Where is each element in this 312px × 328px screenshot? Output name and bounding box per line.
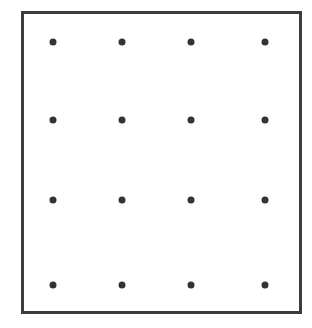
grid-dot-r3-c2 (119, 197, 126, 204)
grid-frame (21, 11, 302, 314)
grid-dot-r1-c3 (188, 39, 195, 46)
grid-dot-r4-c2 (119, 282, 126, 289)
grid-dot-r3-c1 (50, 197, 57, 204)
grid-dot-r2-c1 (50, 117, 57, 124)
grid-dot-r1-c2 (119, 39, 126, 46)
grid-dot-r3-c3 (188, 197, 195, 204)
grid-dot-r2-c4 (262, 117, 269, 124)
grid-dot-r4-c4 (262, 282, 269, 289)
grid-dot-r1-c1 (50, 39, 57, 46)
grid-dot-r4-c1 (50, 282, 57, 289)
grid-dot-r1-c4 (262, 39, 269, 46)
grid-dot-r2-c3 (188, 117, 195, 124)
grid-dot-r3-c4 (262, 197, 269, 204)
grid-dot-r2-c2 (119, 117, 126, 124)
grid-dot-r4-c3 (188, 282, 195, 289)
